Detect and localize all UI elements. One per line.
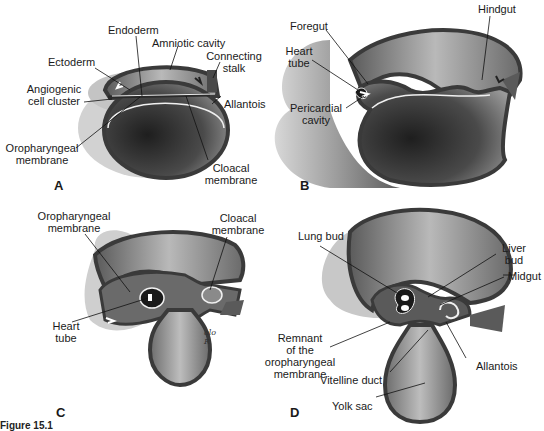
label-foregut: Foregut xyxy=(290,20,328,32)
label-connecting-stalk: Connecting stalk xyxy=(206,50,262,74)
label-heart-tube: Heart tube xyxy=(284,45,314,69)
label-remnant-oropharyngeal-membrane: Remnant of the oropharyngeal membrane xyxy=(262,332,338,380)
label-ectoderm: Ectoderm xyxy=(48,56,95,68)
label-endoderm: Endoderm xyxy=(108,24,159,36)
label-midgut: Midgut xyxy=(508,270,541,282)
label-yolk-sac: Yolk sac xyxy=(332,400,373,412)
label-amniotic-cavity: Amniotic cavity xyxy=(152,37,225,49)
panel-letter-a: A xyxy=(54,178,63,193)
panel-letter-b: B xyxy=(300,178,309,193)
panel-d-drawing xyxy=(322,210,511,422)
label-cloacal-membrane: Cloacal membrane xyxy=(210,212,266,236)
label-vitelline-duct: Vitelline duct xyxy=(320,374,382,386)
label-liver-bud: Liver bud xyxy=(498,242,530,266)
label-hindgut: Hindgut xyxy=(478,3,516,15)
label-allantois: Allantois xyxy=(476,360,518,372)
label-lung-bud: Lung bud xyxy=(298,230,344,242)
panel-letter-c: C xyxy=(56,405,65,420)
panel-c-drawing xyxy=(85,230,244,385)
artist-signature: alo R xyxy=(204,328,216,346)
label-heart-tube: Heart tube xyxy=(50,320,82,344)
label-oropharyngeal-membrane: Oropharyngeal membrane xyxy=(36,210,112,234)
label-cloacal-membrane: Cloacal membrane xyxy=(204,162,258,186)
label-pericardial-cavity: Pericardial cavity xyxy=(286,102,346,126)
label-allantois: Allantois xyxy=(224,98,266,110)
figure-caption: Figure 15.1 xyxy=(0,420,53,431)
label-oropharyngeal-membrane: Oropharyngeal membrane xyxy=(4,142,80,166)
label-angiogenic-cell-cluster: Angiogenic cell cluster xyxy=(24,83,84,107)
panel-letter-d: D xyxy=(290,405,299,420)
